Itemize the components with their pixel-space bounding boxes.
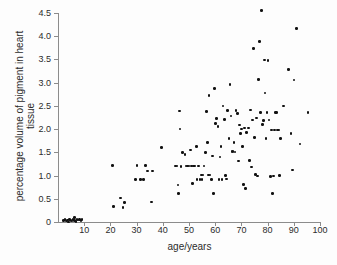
data-point — [211, 155, 214, 158]
data-point — [238, 124, 241, 127]
data-point — [291, 169, 294, 172]
data-point — [123, 201, 126, 204]
data-point — [177, 184, 180, 187]
data-point — [228, 137, 231, 140]
x-tick-label: 50 — [184, 226, 194, 235]
data-point — [180, 165, 183, 168]
data-point — [251, 119, 254, 122]
data-point — [272, 175, 275, 178]
data-point — [151, 170, 154, 173]
data-point — [250, 166, 253, 169]
data-point — [282, 105, 285, 108]
data-point — [236, 112, 239, 115]
data-point — [213, 87, 216, 90]
data-point — [293, 79, 296, 82]
data-point — [253, 136, 256, 139]
x-tick-label: 30 — [132, 226, 142, 235]
data-point — [295, 27, 298, 30]
data-point — [290, 132, 293, 135]
x-tick-label: 70 — [236, 226, 246, 235]
data-point — [196, 178, 199, 181]
data-point — [193, 165, 196, 168]
data-point — [219, 156, 222, 159]
data-point — [242, 183, 245, 186]
x-tick-label: 40 — [158, 226, 168, 235]
data-point — [215, 117, 218, 120]
data-point — [176, 165, 179, 168]
data-point — [221, 178, 224, 181]
data-point — [146, 170, 149, 173]
data-point — [241, 145, 244, 148]
data-point — [111, 164, 114, 167]
y-tick-label: 4.5 — [38, 9, 51, 18]
data-point — [197, 165, 200, 168]
data-point — [223, 118, 226, 121]
data-point — [267, 59, 270, 62]
data-point — [178, 110, 181, 113]
data-point — [259, 111, 262, 114]
data-point — [234, 151, 237, 154]
y-tick-label: 3.5 — [38, 55, 51, 64]
data-point — [220, 145, 223, 148]
data-point — [248, 159, 251, 162]
data-point — [150, 201, 153, 204]
data-point — [136, 164, 139, 167]
data-point — [122, 206, 125, 209]
y-tick-label: 3.0 — [38, 78, 51, 87]
y-tick — [54, 13, 58, 14]
data-point — [209, 174, 212, 177]
data-point — [206, 141, 209, 144]
y-tick — [54, 129, 58, 130]
y-tick-label: 2.0 — [38, 125, 51, 134]
data-point — [210, 178, 213, 181]
data-point — [258, 40, 261, 43]
data-point — [142, 178, 145, 181]
data-point — [287, 68, 290, 71]
y-tick — [54, 83, 58, 84]
data-point — [268, 119, 271, 122]
data-point — [271, 192, 274, 195]
data-point — [184, 153, 187, 156]
data-point — [226, 109, 229, 112]
data-point — [279, 137, 282, 140]
data-point — [202, 174, 205, 177]
data-point — [261, 123, 264, 126]
x-tick-label: 60 — [210, 226, 220, 235]
y-tick — [54, 152, 58, 153]
data-point — [208, 94, 211, 97]
data-point — [249, 109, 252, 112]
data-point — [81, 218, 84, 221]
data-point — [260, 9, 263, 12]
y-tick — [54, 222, 58, 223]
data-point — [307, 111, 310, 114]
data-point — [225, 178, 228, 181]
data-point — [262, 119, 265, 122]
x-tick-label: 10 — [79, 226, 89, 235]
data-point — [229, 83, 232, 86]
data-point — [179, 128, 182, 131]
data-point — [160, 146, 163, 149]
y-tick — [54, 59, 58, 60]
x-axis-label: age/years — [58, 241, 321, 252]
scatter-plot-figure: 10203040506070809010000.51.01.52.02.53.0… — [0, 0, 337, 265]
y-tick-label: 4.0 — [38, 32, 51, 41]
y-tick — [54, 36, 58, 37]
data-point — [244, 187, 247, 190]
y-axis-label: percentage volume of pigment in heart ti… — [14, 21, 36, 211]
y-tick-label: 0 — [46, 218, 51, 227]
data-point — [278, 174, 281, 177]
data-point — [256, 175, 259, 178]
y-tick-label: 1.0 — [38, 171, 51, 180]
data-point — [189, 149, 192, 152]
data-point — [230, 115, 233, 118]
data-point — [257, 78, 260, 81]
y-tick-label: 0.5 — [38, 194, 51, 203]
data-point — [212, 192, 215, 195]
data-point — [201, 178, 204, 181]
x-tick-label: 80 — [263, 226, 273, 235]
y-tick — [54, 176, 58, 177]
x-tick-label: 100 — [312, 226, 327, 235]
data-point — [195, 145, 198, 148]
data-point — [275, 111, 278, 114]
data-point — [233, 141, 236, 144]
